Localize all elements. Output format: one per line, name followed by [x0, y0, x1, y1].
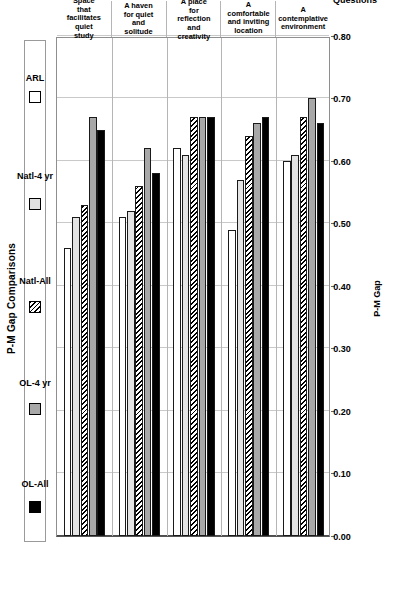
bar-natl-all — [300, 117, 308, 536]
bar-group — [112, 38, 167, 536]
value-axis-tick-label: 0.10 — [333, 470, 351, 480]
category-label: A contemplative environment — [276, 3, 330, 35]
legend-swatch-icon — [29, 403, 41, 415]
bar-natl-all — [135, 186, 143, 536]
category-tick-cell: A haven for quiet and solitude — [111, 1, 166, 37]
category-label: A haven for quiet and solitude — [112, 3, 166, 35]
legend-item-natl-4-yr: Natl-4 yr — [29, 158, 41, 210]
chart-figure: P-M Gap Comparisons OL-AllOL-4 yrNatl-Al… — [0, 0, 405, 597]
legend-swatch-icon — [29, 91, 41, 103]
bar-ol-4-yr — [144, 149, 152, 537]
plot-area — [56, 37, 330, 537]
bar-arl — [228, 230, 236, 536]
legend-item-ol-4-yr: OL-4 yr — [29, 368, 41, 416]
legend-label: Natl-All — [19, 276, 51, 286]
legend-label: Natl-4 yr — [17, 171, 53, 181]
category-label: A place for reflection and creativity — [167, 3, 221, 35]
bar-arl — [173, 149, 181, 537]
bar-ol-4-yr — [308, 99, 316, 537]
bar-natl-4-yr — [237, 180, 245, 536]
bar-natl-4-yr — [72, 217, 80, 536]
legend-swatch-icon — [29, 301, 41, 313]
category-separator — [112, 38, 113, 536]
chart-page: P-M Gap Comparisons OL-AllOL-4 yrNatl-Al… — [0, 0, 405, 597]
legend-label: ARL — [26, 73, 45, 83]
value-axis-tick-label: 0.00 — [333, 532, 351, 542]
chart-legend: OL-AllOL-4 yrNatl-AllNatl-4 yrARL — [24, 40, 46, 542]
category-label: Space that facilitates quiet study — [56, 3, 111, 35]
category-label: A comfortable and inviting location — [221, 3, 275, 35]
bar-group — [167, 38, 222, 536]
legend-item-ol-all: OL-All — [29, 470, 41, 513]
category-axis-title: Questions — [320, 0, 390, 5]
bar-natl-4-yr — [127, 211, 135, 536]
value-axis: 0.800.700.600.500.400.300.200.100.00 — [331, 37, 371, 537]
bar-group — [221, 38, 276, 536]
value-axis-tick-label: 0.30 — [333, 345, 351, 355]
category-separator — [276, 38, 277, 536]
category-axis: Space that facilitates quiet studyA have… — [56, 1, 330, 37]
value-axis-title-label: P-M Gap — [372, 280, 382, 317]
legend-item-natl-all: Natl-All — [29, 265, 41, 313]
bar-ol-all — [317, 124, 325, 537]
bar-ol-all — [262, 117, 270, 536]
category-tick-cell: Space that facilitates quiet study — [56, 1, 111, 37]
bar-ol-4-yr — [253, 124, 261, 537]
bar-ol-4-yr — [199, 117, 207, 536]
bar-arl — [119, 217, 127, 536]
legend-swatch-icon — [29, 501, 41, 513]
bar-natl-all — [190, 117, 198, 536]
value-axis-tick-label: 0.80 — [333, 32, 351, 42]
value-axis-tick-label: 0.60 — [333, 157, 351, 167]
bar-natl-4-yr — [291, 155, 299, 536]
category-label-text: Space that facilitates quiet study — [66, 0, 100, 41]
bar-arl — [64, 249, 72, 537]
value-axis-tick-label: 0.50 — [333, 220, 351, 230]
bar-ol-all — [97, 130, 105, 536]
chart-title: P-M Gap Comparisons — [6, 0, 17, 597]
legend-swatch-icon — [29, 198, 41, 210]
bar-ol-all — [152, 174, 160, 537]
category-tick-cell: A comfortable and inviting location — [220, 1, 275, 37]
category-tick-cell: A place for reflection and creativity — [166, 1, 221, 37]
value-axis-tick-label: 0.40 — [333, 282, 351, 292]
value-axis-tick-label: 0.20 — [333, 407, 351, 417]
rotated-figure-wrapper: P-M Gap Comparisons OL-AllOL-4 yrNatl-Al… — [0, 0, 405, 597]
bar-group — [57, 38, 112, 536]
bar-natl-4-yr — [182, 155, 190, 536]
bar-natl-all — [81, 205, 89, 536]
bar-natl-all — [245, 136, 253, 536]
category-label-text: A place for reflection and creativity — [177, 0, 210, 41]
legend-label: OL-All — [22, 479, 49, 489]
bar-arl — [283, 161, 291, 536]
category-label-text: A contemplative environment — [278, 6, 328, 32]
bar-ol-all — [207, 117, 215, 536]
value-axis-title: P-M Gap — [372, 0, 382, 597]
bar-ol-4-yr — [89, 117, 97, 536]
category-tick-cell: A contemplative environment — [275, 1, 330, 37]
category-label-text: A haven for quiet and solitude — [123, 2, 155, 37]
value-axis-tick-label: 0.70 — [333, 95, 351, 105]
legend-label: OL-4 yr — [19, 379, 51, 389]
category-label-text: A comfortable and inviting location — [227, 2, 269, 37]
legend-item-arl: ARL — [29, 69, 41, 104]
bar-group — [276, 38, 331, 536]
category-separator — [221, 38, 222, 536]
category-separator — [167, 38, 168, 536]
